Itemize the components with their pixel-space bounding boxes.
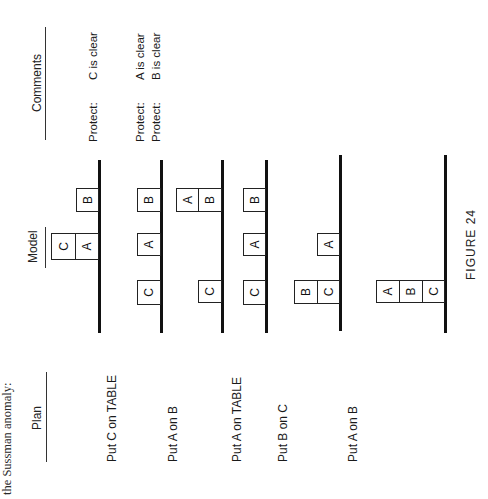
- block-c: C: [51, 233, 76, 260]
- comment-protect-value: A is clear: [134, 33, 146, 80]
- intro-text: the Sussman anomaly:: [0, 383, 15, 496]
- figure-page: the Sussman anomaly: Plan Model Comments…: [0, 0, 488, 499]
- plan-step-4: Put B on C: [276, 404, 290, 462]
- model-header-rule: [45, 227, 46, 268]
- block-c: C: [317, 280, 340, 304]
- block-a: A: [376, 280, 400, 303]
- plan-header: Plan: [30, 406, 44, 430]
- block-b: B: [76, 188, 99, 212]
- comment-protect-label: Protect:: [87, 102, 99, 142]
- plan-step-1: Put C on TABLE: [105, 375, 119, 462]
- block-a: A: [75, 233, 99, 260]
- comment-protect-value: B is clear: [150, 33, 162, 80]
- plan-step-5: Put A on B: [346, 406, 360, 462]
- comments-header: Comments: [30, 54, 44, 112]
- block-b: B: [294, 280, 318, 304]
- plan-step-3: Put A on TABLE: [230, 377, 244, 462]
- model-header: Model: [26, 230, 40, 263]
- block-c: C: [137, 280, 161, 305]
- block-a: A: [243, 233, 266, 256]
- block-a: A: [317, 233, 340, 256]
- table-surface: [221, 160, 224, 333]
- block-c: C: [422, 280, 445, 303]
- block-a: A: [176, 188, 199, 212]
- block-a: A: [137, 233, 161, 256]
- block-c: C: [198, 280, 222, 303]
- comment-protect-label: Protect:: [150, 102, 162, 142]
- plan-step-2: Put A on B: [166, 406, 180, 462]
- block-b: B: [137, 188, 161, 212]
- comment-protect-label: Protect:: [134, 102, 146, 142]
- plan-header-rule: [46, 372, 47, 462]
- table-surface: [444, 155, 447, 333]
- comment-protect-value: C is clear: [87, 32, 99, 80]
- comments-header-rule: [45, 27, 46, 140]
- block-b: B: [198, 188, 222, 212]
- block-c: C: [243, 280, 266, 305]
- block-b: B: [243, 188, 266, 212]
- figure-caption: FIGURE 24: [464, 209, 478, 280]
- block-b: B: [399, 280, 423, 303]
